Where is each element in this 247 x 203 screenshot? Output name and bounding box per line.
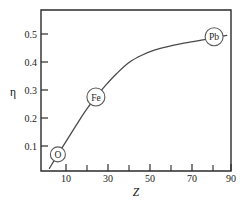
plot-svg: 0.5 0.4 0.3 0.2 0.1 10 30 50 70 90 η Z xyxy=(0,0,247,203)
x-tick-label: 90 xyxy=(226,173,236,184)
x-tick-label: 70 xyxy=(187,173,197,184)
y-tick-labels: 0.5 0.4 0.3 0.2 0.1 xyxy=(25,29,38,152)
marker-label-pb: Pb xyxy=(209,32,219,42)
y-tick-label: 0.4 xyxy=(25,57,38,68)
x-tick-labels: 10 30 50 70 90 xyxy=(61,173,236,184)
x-tick-label: 50 xyxy=(145,173,155,184)
y-tick-label: 0.3 xyxy=(25,85,38,96)
marker-label-o: O xyxy=(54,150,61,160)
x-axis-title: Z xyxy=(133,186,140,198)
x-tick-label: 10 xyxy=(61,173,71,184)
plot-area-background xyxy=(41,10,231,171)
x-tick-label: 30 xyxy=(103,173,113,184)
y-tick-label: 0.5 xyxy=(25,29,38,40)
y-tick-label: 0.2 xyxy=(25,113,38,124)
marker-label-fe: Fe xyxy=(91,93,101,103)
y-axis-title: η xyxy=(10,86,16,99)
y-tick-label: 0.1 xyxy=(25,141,38,152)
chart-figure: 0.5 0.4 0.3 0.2 0.1 10 30 50 70 90 η Z xyxy=(0,0,247,203)
